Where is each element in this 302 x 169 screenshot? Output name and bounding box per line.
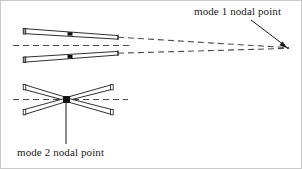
mode-1-upper-blade-marker: [68, 32, 73, 35]
mode-1-lower-blade-root: [23, 57, 26, 63]
mode-2-nodal-point-label: mode 2 nodal point: [17, 146, 104, 158]
nodal-point-diagram: [0, 0, 302, 169]
mode-1-nodal-point-label: mode 1 nodal point: [194, 5, 281, 17]
mode-2-blade-lower-right-root: [111, 109, 114, 114]
mode-1-lower-blade-marker: [68, 55, 73, 58]
mode-2-blade-upper-left-root: [23, 84, 26, 89]
mode-1-upper-blade-root: [23, 28, 26, 34]
mode-2-nodal-point-marker: [63, 96, 70, 103]
figure-canvas: mode 1 nodal point mode 2 nodal point: [0, 0, 302, 169]
mode-2-blade-lower-left-root: [23, 109, 26, 114]
mode-2-blade-upper-right-root: [111, 84, 114, 89]
figure-border: [1, 1, 302, 169]
